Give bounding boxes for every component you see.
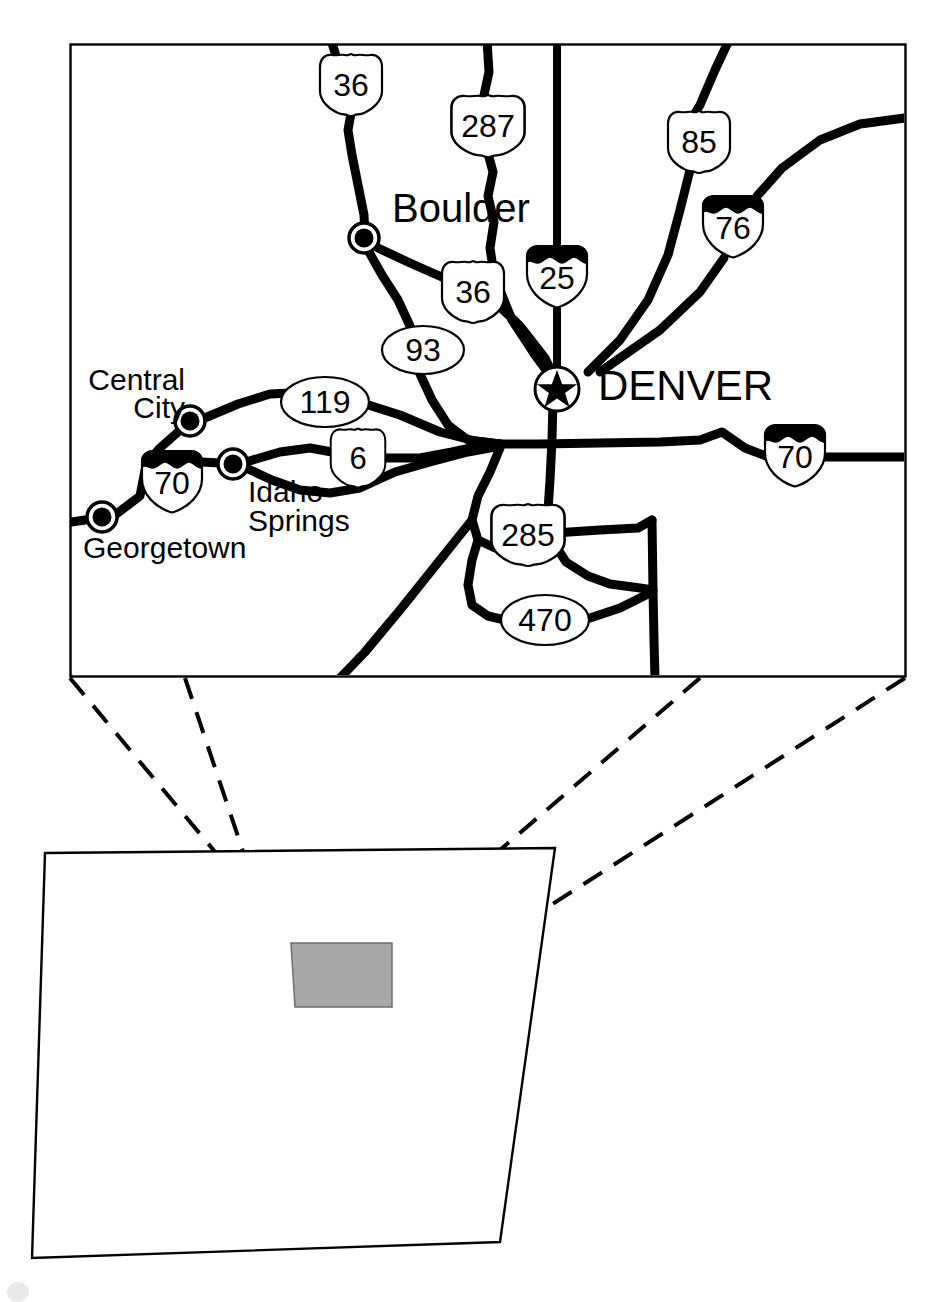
route-shield-i-70-east[interactable]: 70 xyxy=(765,425,825,486)
city-label-central-city-line2: City xyxy=(133,391,185,424)
colorado-state-outline xyxy=(32,848,555,1258)
route-number-label: 36 xyxy=(333,67,369,103)
road-denver-south xyxy=(548,400,653,590)
route-number-label: 70 xyxy=(777,439,813,475)
route-shield-us-287[interactable]: 287 xyxy=(451,95,524,157)
city-marker-idaho-springs[interactable] xyxy=(218,449,248,479)
map-figure-root: Boulder DENVER Central City Idaho Spring… xyxy=(0,0,952,1302)
city-marker-boulder[interactable] xyxy=(349,223,379,253)
city-label-denver: DENVER xyxy=(598,362,773,409)
route-number-label: 470 xyxy=(518,602,571,638)
city-label-idaho-springs-line2: Springs xyxy=(248,504,350,537)
detail-area-highlight-box xyxy=(291,943,392,1007)
city-marker-denver-capital[interactable] xyxy=(535,367,579,411)
route-shield-us-36-north[interactable]: 36 xyxy=(320,54,382,116)
route-shield-c-470[interactable]: 470 xyxy=(501,595,589,645)
scan-artifact xyxy=(7,1282,29,1302)
route-number-label: 93 xyxy=(405,332,441,368)
route-number-label: 85 xyxy=(681,124,717,160)
colorado-state-locator xyxy=(32,848,555,1258)
route-shield-sr-119[interactable]: 119 xyxy=(281,377,369,427)
road-southwest-diagonal xyxy=(340,520,472,678)
route-number-label: 119 xyxy=(299,384,350,420)
city-label-boulder: Boulder xyxy=(392,186,530,230)
route-number-label: 25 xyxy=(539,260,575,296)
city-marker-georgetown[interactable] xyxy=(87,502,117,532)
route-number-label: 6 xyxy=(349,441,366,476)
route-shield-i-70-west[interactable]: 70 xyxy=(142,451,202,512)
route-shield-sr-93[interactable]: 93 xyxy=(382,326,464,374)
route-number-label: 287 xyxy=(461,108,514,144)
route-number-label: 285 xyxy=(501,517,554,553)
route-shield-us-6[interactable]: 6 xyxy=(331,429,386,488)
road-east-vertical xyxy=(652,520,655,678)
map-canvas: Boulder DENVER Central City Idaho Spring… xyxy=(0,0,952,1302)
route-shield-i-76[interactable]: 76 xyxy=(703,196,763,257)
route-shield-i-25[interactable]: 25 xyxy=(527,246,587,307)
road-ew-trunk xyxy=(500,432,766,456)
route-shield-us-85[interactable]: 85 xyxy=(668,111,730,173)
city-label-georgetown: Georgetown xyxy=(83,531,246,564)
route-number-label: 36 xyxy=(455,274,491,310)
route-shield-us-285[interactable]: 285 xyxy=(491,504,564,566)
route-number-label: 76 xyxy=(715,210,751,246)
route-number-label: 70 xyxy=(154,465,190,501)
route-shield-us-36-south[interactable]: 36 xyxy=(442,261,504,323)
